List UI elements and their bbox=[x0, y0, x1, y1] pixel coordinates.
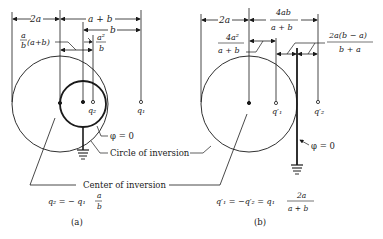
label-2a-b: 2a bbox=[218, 15, 230, 25]
label-2a-a: 2a bbox=[29, 14, 41, 24]
label-a-plus-b-a: a + b bbox=[88, 14, 113, 24]
label-4a2-num: 4a² bbox=[225, 33, 239, 42]
equation-b-num: 2a bbox=[296, 191, 306, 200]
label-ab-den: b bbox=[21, 41, 26, 50]
equation-a-den: b bbox=[97, 202, 102, 211]
label-phi-a: φ = 0 bbox=[110, 131, 134, 141]
label-4a2-den: a + b bbox=[218, 46, 240, 55]
figure-a bbox=[12, 10, 143, 185]
label-4ab-num: 4ab bbox=[275, 8, 291, 17]
label-a2b-num: a² bbox=[97, 33, 105, 42]
label-center-of-inversion: Center of inversion bbox=[83, 180, 166, 190]
figure-b bbox=[186, 8, 325, 185]
equation-b-lhs: q′₁ = −q′₂ = q₁ bbox=[216, 197, 275, 206]
equation-b-den: a + b bbox=[288, 204, 309, 213]
equation-a-num: a bbox=[97, 191, 101, 200]
label-2aba-num: 2a(b − a) bbox=[328, 31, 367, 40]
caption-b: (b) bbox=[254, 217, 266, 227]
label-a2b-den: b bbox=[99, 44, 104, 53]
label-b-a: b bbox=[110, 25, 116, 35]
label-ab-num: a bbox=[21, 31, 26, 40]
label-ab-paren: (a+b) bbox=[27, 38, 50, 47]
label-phi-b: φ = 0 bbox=[311, 141, 335, 151]
label-4ab-den: a + b bbox=[271, 23, 293, 32]
label-q2: q₂ bbox=[88, 106, 96, 115]
label-q2-prime: q′₂ bbox=[314, 107, 324, 116]
equation-a-lhs: q₂ = − q₁ bbox=[48, 197, 86, 206]
inversion-diagram: 2a a + b b a b (a+b) a² b q₂ q₁ φ = 0 Ci… bbox=[0, 0, 383, 239]
label-q1: q₁ bbox=[137, 106, 145, 115]
label-q1-prime: q′₁ bbox=[272, 107, 282, 116]
label-2aba-den: b + a bbox=[339, 45, 361, 54]
label-circle-of-inversion: Circle of inversion bbox=[110, 148, 190, 158]
caption-a: (a) bbox=[71, 217, 83, 227]
